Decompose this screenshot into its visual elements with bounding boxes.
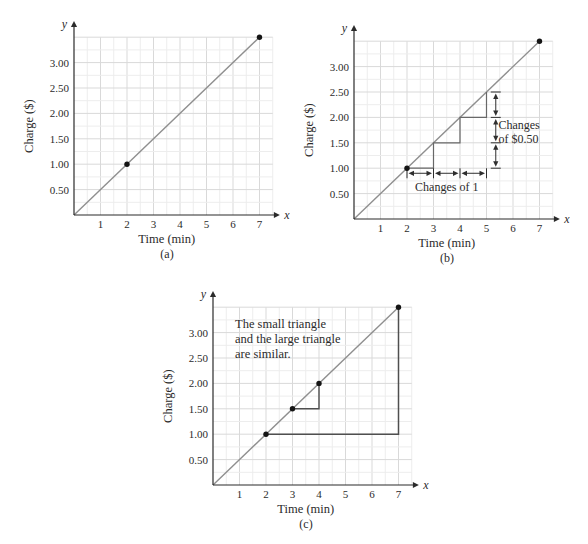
- x-tick-label: 7: [257, 218, 263, 230]
- x-tick-label: 4: [316, 488, 322, 500]
- y-axis-title: Charge ($): [22, 99, 36, 153]
- y-tick-label: 2.00: [189, 377, 209, 389]
- x-axis-letter: x: [422, 478, 429, 492]
- x-tick-label: 2: [404, 222, 410, 234]
- x-tick-label: 5: [204, 218, 210, 230]
- x-tick-label: 3: [290, 488, 296, 500]
- y-tick-label: 1.00: [189, 428, 209, 440]
- y-tick-label: 3.00: [50, 57, 70, 69]
- data-point: [316, 381, 321, 386]
- y-tick-label: 0.50: [50, 184, 70, 196]
- data-point: [124, 162, 129, 167]
- x-tick-label: 2: [263, 488, 269, 500]
- y-axis-letter: y: [341, 21, 348, 35]
- panel-a: xy12345670.501.001.502.002.503.00Time (m…: [0, 0, 294, 272]
- x-axis-title: Time (min): [138, 232, 195, 246]
- similar-triangles-note: are similar.: [235, 347, 291, 361]
- y-axis-arrow-icon: [210, 291, 216, 297]
- arrowhead-icon: [480, 171, 486, 176]
- figure-canvas: xy12345670.501.001.502.002.503.00Time (m…: [0, 0, 588, 544]
- x-axis-letter: x: [563, 212, 570, 226]
- arrowhead-icon: [435, 171, 441, 176]
- x-tick-label: 1: [98, 218, 104, 230]
- similar-triangles-note: The small triangle: [235, 317, 326, 331]
- x-axis-arrow-icon: [413, 482, 419, 488]
- y-axis-letter: y: [61, 17, 68, 31]
- y-axis-title: Charge ($): [302, 103, 316, 157]
- arrowhead-icon: [462, 171, 468, 176]
- y-tick-label: 3.00: [330, 61, 350, 73]
- chart-a-svg: xy12345670.501.001.502.002.503.00Time (m…: [0, 0, 294, 272]
- data-point: [290, 406, 295, 411]
- y-axis-arrow-icon: [351, 25, 357, 31]
- caption-a: (a): [74, 247, 260, 262]
- x-tick-label: 3: [431, 222, 437, 234]
- x-tick-label: 6: [369, 488, 375, 500]
- data-point: [404, 166, 409, 171]
- y-tick-label: 2.50: [50, 82, 70, 94]
- changes-of-1-label: Changes of 1: [415, 180, 478, 194]
- y-tick-label: 2.00: [330, 111, 350, 123]
- x-tick-label: 6: [510, 222, 516, 234]
- x-tick-label: 7: [537, 222, 543, 234]
- arrowhead-icon: [493, 161, 498, 167]
- y-axis-letter: y: [200, 287, 207, 301]
- x-tick-label: 1: [378, 222, 384, 234]
- data-point: [396, 305, 401, 310]
- caption-c: (c): [213, 517, 399, 532]
- caption-b: (b): [354, 251, 540, 266]
- y-tick-label: 2.50: [189, 352, 209, 364]
- changes-of-050-label: Changes: [498, 118, 540, 132]
- x-tick-label: 2: [124, 218, 130, 230]
- changes-of-050-label: of $0.50: [498, 132, 538, 146]
- arrowhead-icon: [453, 171, 459, 176]
- x-tick-label: 3: [151, 218, 157, 230]
- arrowhead-icon: [427, 171, 433, 176]
- x-tick-label: 1: [237, 488, 243, 500]
- arrowhead-icon: [493, 94, 498, 100]
- y-tick-label: 0.50: [330, 188, 350, 200]
- arrowhead-icon: [409, 171, 415, 176]
- y-tick-label: 1.50: [189, 403, 209, 415]
- y-tick-label: 2.50: [330, 86, 350, 98]
- y-tick-label: 1.00: [50, 158, 70, 170]
- data-point: [257, 35, 262, 40]
- x-axis-title: Time (min): [418, 236, 475, 250]
- x-axis-arrow-icon: [554, 216, 560, 222]
- x-tick-label: 4: [177, 218, 183, 230]
- x-tick-label: 7: [396, 488, 402, 500]
- x-axis-title: Time (min): [277, 502, 334, 516]
- panel-c: xy12345670.501.001.502.002.503.00Time (m…: [139, 270, 433, 542]
- chart-b-svg: xy12345670.501.001.502.002.503.00Time (m…: [280, 4, 574, 276]
- y-tick-label: 1.50: [50, 133, 70, 145]
- y-tick-label: 1.00: [330, 162, 350, 174]
- y-tick-label: 3.00: [189, 327, 209, 339]
- x-tick-label: 6: [230, 218, 236, 230]
- x-tick-label: 4: [457, 222, 463, 234]
- x-tick-label: 5: [484, 222, 490, 234]
- y-axis-title: Charge ($): [161, 369, 175, 423]
- similar-triangles-note: and the large triangle: [235, 332, 341, 346]
- data-point: [537, 39, 542, 44]
- y-axis-arrow-icon: [71, 21, 77, 27]
- chart-c-svg: xy12345670.501.001.502.002.503.00Time (m…: [139, 270, 433, 542]
- arrowhead-icon: [493, 110, 498, 116]
- y-tick-label: 1.50: [330, 137, 350, 149]
- y-tick-label: 0.50: [189, 454, 209, 466]
- y-tick-label: 2.00: [50, 107, 70, 119]
- x-tick-label: 5: [343, 488, 349, 500]
- x-axis-arrow-icon: [274, 212, 280, 218]
- panel-b: xy12345670.501.001.502.002.503.00Time (m…: [280, 4, 574, 276]
- data-point: [263, 432, 268, 437]
